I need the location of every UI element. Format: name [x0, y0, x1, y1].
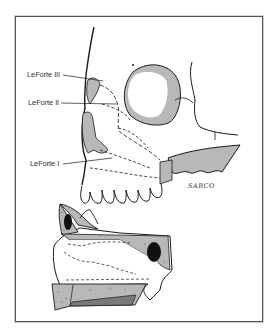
maxilla-shade [82, 112, 108, 153]
left-sinus [64, 214, 72, 230]
orbit-dot [132, 64, 134, 66]
ramus-section [160, 160, 172, 184]
ramus-shade [168, 145, 240, 173]
temporal-line [190, 62, 238, 135]
lefort-i-fracture-line [90, 168, 160, 178]
label-lefort-iii: LeForte III [27, 70, 60, 79]
upper-teeth [81, 184, 162, 203]
right-sinus [147, 242, 161, 262]
lefort-iii-leader [63, 75, 103, 81]
label-lefort-i: LeForte I [30, 159, 59, 168]
lefort-ii-leader [61, 103, 117, 104]
nasal-bone-shade [87, 78, 100, 104]
lefort-i-leader [63, 158, 112, 164]
artist-signature: SABCO [188, 182, 215, 190]
label-lefort-ii: LeForte II [28, 98, 59, 107]
